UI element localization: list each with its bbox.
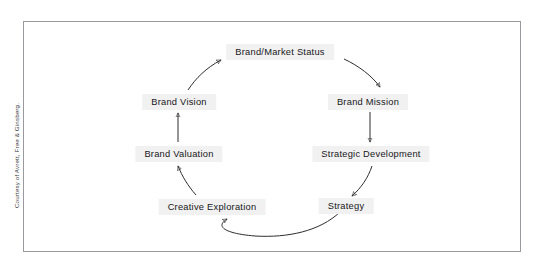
node-strategic-development[interactable]: Strategic Development	[312, 146, 429, 162]
node-strategy[interactable]: Strategy	[319, 198, 374, 214]
cycle-arrow-layer	[0, 0, 534, 273]
edge-strategy-to-creative	[222, 212, 340, 236]
node-brand-vision[interactable]: Brand Vision	[142, 94, 216, 110]
attribution-credit: Courtesy of Avrett, Free & Ginsberg.	[13, 96, 20, 216]
figure-root: Courtesy of Avrett, Free & Ginsberg.	[0, 0, 534, 273]
node-creative-exploration[interactable]: Creative Exploration	[159, 199, 266, 215]
edge-strategic-to-strategy	[352, 166, 372, 196]
node-brand-market-status[interactable]: Brand/Market Status	[226, 44, 334, 60]
edge-creative-to-valuation	[178, 166, 196, 195]
node-brand-mission[interactable]: Brand Mission	[328, 94, 408, 110]
node-brand-valuation[interactable]: Brand Valuation	[135, 146, 222, 162]
edge-status-to-mission	[344, 59, 380, 87]
edge-vision-to-status	[188, 60, 221, 90]
figure-frame: Brand/Market Status Brand Mission Strate…	[23, 21, 521, 252]
